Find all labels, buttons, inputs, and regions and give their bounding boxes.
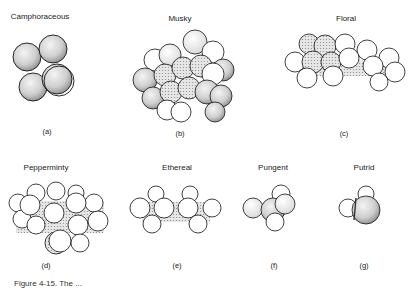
odor-label-pepperminty: Pepperminty [24,163,69,172]
putrid-molecule-model [338,186,388,231]
musky-molecule-model [125,30,235,125]
panel-label-g: (g) [359,261,368,270]
odor-label-floral: Floral [336,14,356,23]
pepperminty-molecule-model [8,183,113,258]
panel-label-b: (b) [175,129,184,138]
odor-label-pungent: Pungent [258,163,288,172]
odor-label-putrid: Putrid [354,163,375,172]
panel-label-c: (c) [340,129,349,138]
floral-molecule-model [283,32,408,94]
odor-label-camphoraceous: Camphoraceous [11,12,70,21]
panel-label-f: (f) [270,261,277,270]
odor-label-ethereal: Ethereal [162,163,192,172]
ethereal-molecule-model [130,186,220,236]
panel-label-a: (a) [42,127,51,136]
odor-label-musky: Musky [168,14,191,23]
camphoraceous-molecule-model [5,35,80,115]
pungent-molecule-model [243,184,303,234]
panel-label-d: (d) [41,261,50,270]
panel-label-e: (e) [172,261,181,270]
figure-caption: Figure 4-15. The ... [14,279,82,288]
